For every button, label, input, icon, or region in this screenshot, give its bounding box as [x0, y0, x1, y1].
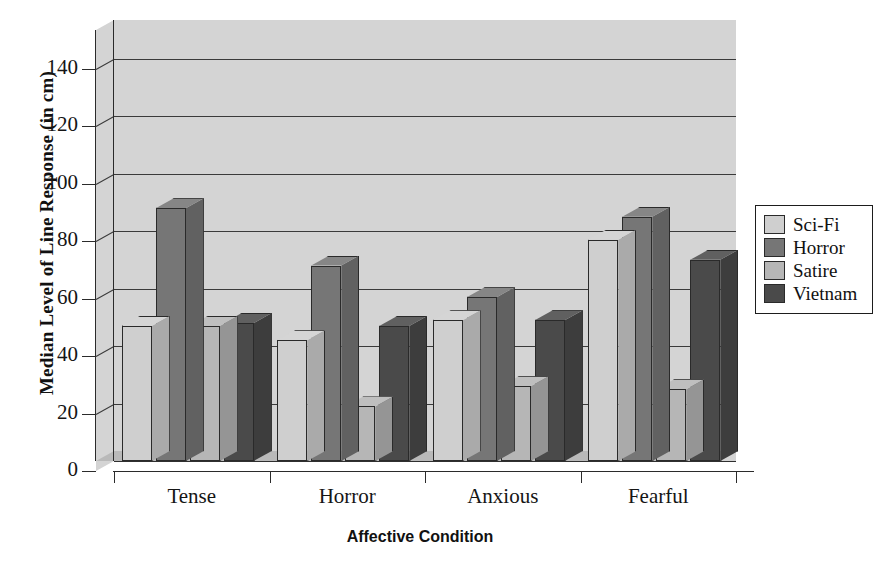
bar-side-face — [186, 198, 204, 461]
x-tick — [270, 471, 271, 483]
x-tick-label: Anxious — [428, 484, 578, 509]
y-tick-label: 100 — [24, 170, 78, 195]
x-tick-label: Tense — [117, 484, 267, 509]
x-axis-title: Affective Condition — [100, 528, 740, 546]
bar-side-face — [497, 287, 515, 461]
bar-side-face — [307, 330, 325, 461]
bar-side-face — [686, 379, 704, 461]
bar — [588, 230, 636, 461]
x-axis-line — [113, 471, 754, 472]
bar-front-face — [433, 320, 463, 461]
y-tick-label: 80 — [24, 227, 78, 252]
legend-item: Horror — [764, 236, 864, 259]
baseline — [114, 461, 736, 462]
y-tick-label: 60 — [24, 285, 78, 310]
chart-legend: Sci-FiHorrorSatireVietnam — [755, 205, 873, 314]
bar-side-face — [531, 376, 549, 461]
plot-area: 020406080100120140 TenseHorrorAnxiousFea… — [0, 0, 883, 562]
bar-front-face — [277, 340, 307, 461]
legend-label: Horror — [793, 238, 845, 257]
bar-side-face — [152, 316, 170, 461]
y-tick — [82, 69, 96, 70]
bar — [122, 316, 170, 461]
bar-side-face — [341, 256, 359, 461]
y-tick-label: 40 — [24, 342, 78, 367]
y-tick-label: 20 — [24, 400, 78, 425]
y-tick — [82, 126, 96, 127]
bar-side-face — [720, 250, 738, 461]
legend-label: Vietnam — [793, 284, 857, 303]
bar-front-face — [122, 326, 152, 461]
x-tick-label: Horror — [272, 484, 422, 509]
bar-front-face — [588, 240, 618, 461]
legend-label: Sci-Fi — [793, 215, 839, 234]
y-tick — [82, 414, 96, 415]
y-axis-line-back — [95, 30, 96, 461]
legend-swatch — [764, 238, 785, 257]
y-tick — [82, 241, 96, 242]
y-tick-label: 120 — [24, 112, 78, 137]
x-tick-label: Fearful — [583, 484, 733, 509]
legend-swatch — [764, 261, 785, 280]
y-tick-label: 0 — [24, 457, 78, 482]
x-tick — [114, 471, 115, 483]
legend-label: Satire — [793, 261, 837, 280]
gridline — [114, 116, 736, 117]
bar-side-face — [565, 310, 583, 461]
legend-swatch — [764, 215, 785, 234]
y-tick — [82, 299, 96, 300]
bar — [277, 330, 325, 461]
bar-side-face — [254, 313, 272, 461]
y-tick — [82, 184, 96, 185]
bar-side-face — [652, 207, 670, 461]
legend-swatch — [764, 284, 785, 303]
bar — [433, 310, 481, 461]
legend-item: Sci-Fi — [764, 213, 864, 236]
gridline — [114, 59, 736, 60]
bar-side-face — [220, 316, 238, 461]
y-tick — [82, 471, 96, 472]
legend-item: Vietnam — [764, 282, 864, 305]
bar-side-face — [463, 310, 481, 461]
x-tick — [736, 471, 737, 483]
x-tick — [581, 471, 582, 483]
bar-side-face — [618, 230, 636, 461]
chart-figure: Median Level of Line Response (in cm) 02… — [0, 0, 883, 562]
legend-item: Satire — [764, 259, 864, 282]
x-tick — [425, 471, 426, 483]
y-axis-line — [113, 20, 114, 461]
bar-side-face — [375, 396, 393, 461]
y-tick-label: 140 — [24, 55, 78, 80]
y-tick — [82, 356, 96, 357]
bar-side-face — [409, 316, 427, 461]
gridline — [114, 174, 736, 175]
